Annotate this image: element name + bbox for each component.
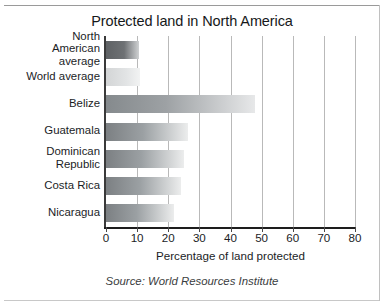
figure-top-rule — [4, 5, 380, 6]
source-annotation: Source: World Resources Institute — [0, 275, 384, 287]
bar-north-american-average — [106, 41, 139, 59]
chart-figure: Protected land in North America NorthAme… — [0, 0, 384, 306]
gridline — [231, 36, 232, 227]
plot-area — [106, 36, 355, 227]
x-tick-label: 0 — [91, 231, 121, 244]
gridline — [262, 36, 263, 227]
category-label-guatemala: Guatemala — [6, 124, 100, 137]
x-tick-label: 80 — [340, 231, 370, 244]
bar-dominican-republic — [106, 150, 184, 168]
figure-right-rule — [379, 5, 380, 301]
x-axis-title: Percentage of land protected — [106, 249, 355, 262]
bar-nicaragua — [106, 204, 174, 222]
x-tick-label: 10 — [122, 231, 152, 244]
x-tick-label: 20 — [153, 231, 183, 244]
bar-guatemala — [106, 123, 188, 141]
category-label-belize: Belize — [6, 97, 100, 110]
gridline — [293, 36, 294, 227]
bar-costa-rica — [106, 177, 181, 195]
chart-title: Protected land in North America — [0, 13, 384, 29]
category-label-dominican-republic: DominicanRepublic — [6, 145, 100, 170]
bar-world-average — [106, 68, 140, 86]
category-label-costa-rica: Costa Rica — [6, 179, 100, 192]
bar-belize — [106, 95, 255, 113]
x-tick-label: 70 — [309, 231, 339, 244]
gridline — [355, 36, 356, 227]
x-axis-tick-labels: 01020304050607080 — [106, 231, 355, 247]
x-tick-label: 50 — [247, 231, 277, 244]
gridline — [199, 36, 200, 227]
figure-bottom-rule — [4, 300, 380, 301]
x-tick-label: 40 — [216, 231, 246, 244]
x-tick-label: 60 — [278, 231, 308, 244]
category-label-world-average: World average — [6, 70, 100, 83]
category-label-nicaragua: Nicaragua — [6, 206, 100, 219]
category-label-north-american-average: NorthAmericanaverage — [6, 30, 100, 68]
gridline — [324, 36, 325, 227]
x-tick-label: 30 — [184, 231, 214, 244]
category-axis-labels: NorthAmericanaverageWorld averageBelizeG… — [6, 36, 100, 227]
